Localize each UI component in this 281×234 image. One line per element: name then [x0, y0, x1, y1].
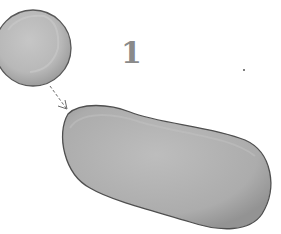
elongated-cell — [63, 106, 271, 229]
arrow-icon — [50, 86, 67, 109]
stray-dot — [243, 69, 245, 71]
step-number-label: 1 — [121, 38, 142, 68]
round-cell — [0, 10, 71, 86]
diagram-canvas: 1 — [0, 0, 281, 234]
